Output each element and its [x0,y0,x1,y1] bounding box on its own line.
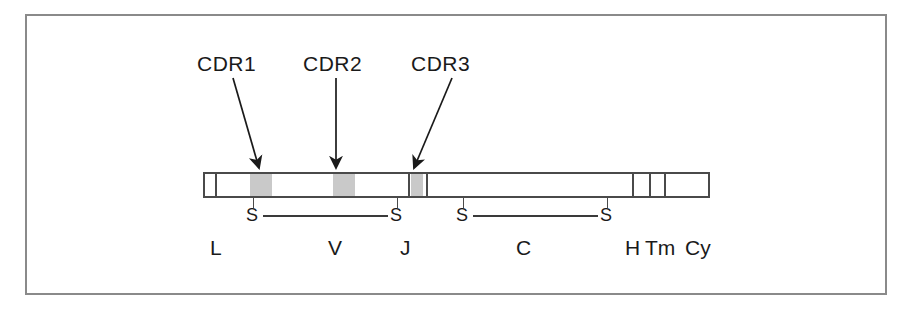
domain-label-cy: Cy [685,236,711,260]
cdr2-label: CDR2 [303,52,362,76]
cdr3-label: CDR3 [411,52,470,76]
domain-label-c: C [516,236,531,260]
domain-label-j: J [400,236,411,260]
disulfide-2-left-s: S [456,205,468,226]
cdr1-block [250,174,272,196]
bar-divider-j-c [426,174,428,196]
bar-divider-v-j [408,174,410,196]
disulfide-2-right-s: S [600,205,612,226]
cdr1-label: CDR1 [197,52,256,76]
receptor-chain-bar [203,172,710,198]
domain-label-tm: Tm [645,236,675,260]
disulfide-1-left-s: S [246,205,258,226]
disulfide-2-bridge [473,215,598,217]
disulfide-1-bridge [263,215,388,217]
cdr3-block [411,174,423,196]
bar-divider-l-v [215,174,217,196]
domain-label-h: H [625,236,640,260]
domain-label-v: V [328,236,342,260]
bar-divider-h-tm [649,174,651,196]
cdr2-block [333,174,355,196]
bar-divider-c-h [632,174,634,196]
bar-divider-tm-cy [664,174,666,196]
disulfide-1-right-s: S [390,205,402,226]
domain-label-l: L [210,236,222,260]
figure-canvas: CDR1 CDR2 CDR3 S S S S L V [0,0,914,311]
